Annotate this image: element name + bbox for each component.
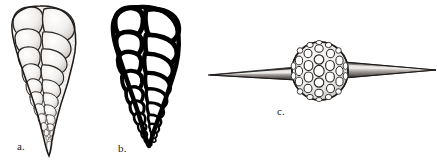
figure-label-a: a. (17, 141, 25, 152)
figure-label-c: c. (277, 106, 285, 117)
figure-label-b: b. (118, 143, 127, 154)
microfossil-plate: a. b. c. (0, 0, 437, 163)
specimen-c-lattice-pores (291, 41, 348, 102)
plate-illustration (0, 0, 437, 163)
